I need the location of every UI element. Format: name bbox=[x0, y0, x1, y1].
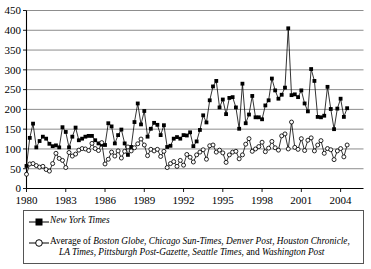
x-axis-tick-label: 1992 bbox=[173, 194, 195, 206]
data-point-new-york-times bbox=[198, 128, 202, 132]
data-point-average-other-papers bbox=[103, 162, 107, 166]
data-point-new-york-times bbox=[296, 95, 300, 99]
x-axis-tick-label: 2001 bbox=[290, 194, 312, 206]
data-point-average-other-papers bbox=[106, 157, 110, 161]
data-point-new-york-times bbox=[185, 134, 189, 138]
data-point-average-other-papers bbox=[237, 157, 241, 161]
data-point-average-other-papers bbox=[129, 149, 133, 153]
data-point-new-york-times bbox=[260, 117, 264, 121]
data-point-new-york-times bbox=[165, 145, 169, 149]
data-point-average-other-papers bbox=[113, 154, 117, 158]
data-point-new-york-times bbox=[133, 120, 137, 124]
data-point-new-york-times bbox=[70, 135, 74, 139]
data-point-average-other-papers bbox=[126, 145, 130, 149]
y-axis-tick-label: 0 bbox=[16, 182, 22, 194]
x-axis-tick-label: 1983 bbox=[55, 194, 78, 206]
data-point-average-other-papers bbox=[283, 132, 287, 136]
data-point-new-york-times bbox=[178, 137, 182, 141]
data-point-new-york-times bbox=[67, 145, 71, 149]
data-point-new-york-times bbox=[273, 89, 277, 93]
data-point-average-other-papers bbox=[204, 157, 208, 161]
data-point-new-york-times bbox=[31, 122, 35, 126]
chart-plot-area: 0501001502002503003504004501980198319861… bbox=[0, 0, 371, 205]
data-point-average-other-papers bbox=[119, 156, 123, 160]
data-point-new-york-times bbox=[149, 127, 153, 131]
data-point-new-york-times bbox=[234, 106, 238, 110]
data-point-new-york-times bbox=[335, 107, 339, 111]
data-point-new-york-times bbox=[54, 143, 58, 147]
data-point-new-york-times bbox=[283, 86, 287, 90]
x-axis-tick-label: 1998 bbox=[251, 194, 274, 206]
data-point-new-york-times bbox=[51, 144, 55, 148]
data-point-new-york-times bbox=[201, 113, 205, 117]
data-point-new-york-times bbox=[309, 67, 313, 71]
data-point-new-york-times bbox=[93, 138, 97, 142]
data-point-average-other-papers bbox=[342, 155, 346, 159]
data-point-average-other-papers bbox=[165, 166, 169, 170]
data-point-new-york-times bbox=[64, 130, 68, 134]
legend-avg-papers-line1: Boston Globe, Chicago Sun-Times, Denver … bbox=[93, 236, 350, 246]
data-point-new-york-times bbox=[319, 115, 323, 119]
data-point-average-other-papers bbox=[116, 149, 120, 153]
y-axis-tick-label: 300 bbox=[5, 64, 22, 76]
x-axis-tick-label: 2004 bbox=[330, 194, 353, 206]
data-point-new-york-times bbox=[126, 153, 130, 157]
data-point-new-york-times bbox=[136, 102, 140, 106]
data-point-average-other-papers bbox=[244, 142, 248, 146]
data-point-new-york-times bbox=[195, 140, 199, 144]
data-point-new-york-times bbox=[339, 97, 343, 101]
data-point-average-other-papers bbox=[296, 147, 300, 151]
data-point-new-york-times bbox=[139, 123, 143, 127]
data-point-new-york-times bbox=[329, 107, 333, 111]
data-point-new-york-times bbox=[155, 123, 159, 127]
data-point-new-york-times bbox=[293, 92, 297, 96]
data-point-average-other-papers bbox=[110, 150, 114, 154]
legend-label-average-other-papers: Average of Boston Globe, Chicago Sun-Tim… bbox=[50, 236, 350, 258]
data-point-new-york-times bbox=[175, 135, 179, 139]
data-point-new-york-times bbox=[90, 134, 94, 138]
data-point-new-york-times bbox=[322, 114, 326, 118]
data-point-average-other-papers bbox=[25, 172, 29, 176]
data-point-new-york-times bbox=[83, 135, 87, 139]
data-point-new-york-times bbox=[241, 82, 245, 86]
data-point-new-york-times bbox=[61, 125, 65, 129]
legend-avg-prefix: Average of bbox=[50, 236, 93, 246]
y-axis-tick-label: 350 bbox=[5, 44, 22, 56]
data-point-new-york-times bbox=[162, 123, 166, 127]
data-point-average-other-papers bbox=[276, 148, 280, 152]
data-point-new-york-times bbox=[267, 98, 271, 102]
data-point-new-york-times bbox=[270, 77, 274, 81]
data-point-new-york-times bbox=[152, 121, 156, 125]
data-point-new-york-times bbox=[188, 130, 192, 134]
data-point-average-other-papers bbox=[257, 145, 261, 149]
data-point-average-other-papers bbox=[299, 137, 303, 141]
data-point-average-other-papers bbox=[332, 158, 336, 162]
data-point-new-york-times bbox=[326, 85, 330, 89]
data-point-new-york-times bbox=[74, 126, 78, 130]
data-point-average-other-papers bbox=[67, 151, 71, 155]
data-point-new-york-times bbox=[254, 115, 258, 119]
data-point-average-other-papers bbox=[123, 149, 127, 153]
data-point-new-york-times bbox=[41, 135, 45, 139]
data-point-new-york-times bbox=[224, 112, 228, 116]
data-point-average-other-papers bbox=[100, 141, 104, 145]
data-point-average-other-papers bbox=[139, 137, 143, 141]
data-point-average-other-papers bbox=[132, 146, 136, 150]
data-point-average-other-papers bbox=[286, 147, 290, 151]
legend-marker-filled-square-icon bbox=[28, 216, 50, 228]
data-point-new-york-times bbox=[34, 145, 38, 149]
data-point-new-york-times bbox=[110, 125, 114, 129]
data-point-new-york-times bbox=[211, 85, 215, 89]
data-point-average-other-papers bbox=[60, 158, 64, 162]
data-point-average-other-papers bbox=[316, 143, 320, 147]
data-point-average-other-papers bbox=[201, 148, 205, 152]
data-point-new-york-times bbox=[87, 134, 91, 138]
data-point-new-york-times bbox=[332, 127, 336, 131]
data-point-average-other-papers bbox=[178, 158, 182, 162]
data-point-new-york-times bbox=[299, 89, 303, 93]
data-point-new-york-times bbox=[306, 109, 310, 113]
data-point-new-york-times bbox=[257, 115, 261, 119]
data-point-average-other-papers bbox=[345, 143, 349, 147]
data-point-average-other-papers bbox=[240, 153, 244, 157]
data-point-average-other-papers bbox=[312, 149, 316, 153]
